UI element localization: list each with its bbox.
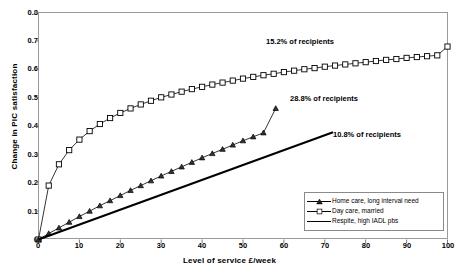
annotation-respite: 10.8% of recipients: [333, 131, 401, 139]
y-tick-0: 0.8: [2, 9, 38, 17]
x-axis-title: Level of service £/week: [0, 256, 459, 265]
y-tick-5: 0.3: [2, 151, 38, 159]
x-tick-6: 60: [269, 242, 299, 250]
x-tick-7: 70: [310, 242, 340, 250]
y-tick-6: 0.2: [2, 179, 38, 187]
x-tick-9: 90: [392, 242, 422, 250]
legend-label-day-care: Day care, married: [331, 208, 384, 215]
legend-item-home-care[interactable]: Home care, long interval need: [307, 197, 440, 206]
y-tick-7: 0.1: [2, 208, 38, 216]
x-tick-4: 40: [187, 242, 217, 250]
y-axis-title: Change in PIC satisfaction: [10, 47, 19, 187]
legend-key-line-icon: [307, 217, 331, 226]
y-axis-ticks: 0.8 0.7 0.6 0.5 0.4 0.3 0.2 0.1 0: [0, 0, 38, 272]
x-tick-2: 20: [105, 242, 135, 250]
legend-label-home-care: Home care, long interval need: [331, 198, 419, 205]
annotation-day-care: 15.2% of recipients: [266, 38, 334, 46]
y-tick-2: 0.6: [2, 65, 38, 73]
x-tick-5: 50: [228, 242, 258, 250]
x-tick-0: 0: [23, 242, 53, 250]
x-tick-8: 80: [351, 242, 381, 250]
x-tick-1: 10: [64, 242, 94, 250]
legend-item-respite[interactable]: Respite, high IADL pbs: [307, 217, 440, 226]
x-tick-10: 100: [433, 242, 459, 250]
y-tick-1: 0.7: [2, 37, 38, 45]
legend-label-respite: Respite, high IADL pbs: [331, 218, 398, 225]
x-tick-3: 30: [146, 242, 176, 250]
chart-container: 0.8 0.7 0.6 0.5 0.4 0.3 0.2 0.1 0 0 10 2…: [0, 0, 459, 272]
legend: Home care, long interval need Day care, …: [304, 192, 444, 231]
legend-key-square-icon: [307, 207, 331, 216]
legend-item-day-care[interactable]: Day care, married: [307, 207, 440, 216]
legend-key-triangle-icon: [307, 197, 331, 206]
annotation-home-care: 28.8% of recipients: [290, 95, 358, 103]
y-tick-4: 0.4: [2, 122, 38, 130]
y-tick-3: 0.5: [2, 94, 38, 102]
